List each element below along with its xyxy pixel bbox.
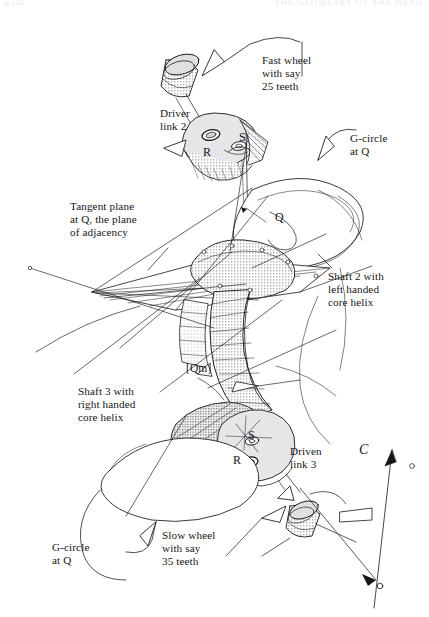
node-circle-icon <box>410 464 415 469</box>
node-circle-icon <box>377 583 383 589</box>
slow-wheel-cylinder <box>286 497 321 537</box>
annotation-driver-link: Driver link 2 <box>160 107 190 133</box>
point-label-q: Q <box>275 210 284 224</box>
point-label-c: C <box>359 442 368 459</box>
figure-page: g.122 THE GEOMETRY OF THE MESH <box>0 0 429 617</box>
annotation-tangent-plane: Tangent plane at Q, the plane of adjacen… <box>70 200 137 240</box>
annotation-driven-link: Driven link 3 <box>290 445 322 471</box>
point-label-r-upper: R <box>203 145 211 159</box>
annotation-shaft-3: Shaft 3 with right handed core helix <box>78 385 135 425</box>
point-label-r-lower: R <box>233 453 241 467</box>
annotation-slow-wheel: Slow wheel with say 35 teeth <box>162 529 216 569</box>
point-label-qm: [Qm] <box>186 362 211 376</box>
g-circle-lower <box>101 438 259 521</box>
annotation-fast-wheel: Fast wheel with say 25 teeth <box>262 54 311 94</box>
annotation-shaft-2: Shaft 2 with left handed core helix <box>328 270 384 310</box>
annotation-g-circle-bottom: G-circle at Q <box>52 541 89 567</box>
annotation-g-circle-top: G-circle at Q <box>350 132 387 158</box>
secondary-helix-ribbon <box>179 300 208 368</box>
point-label-s-upper: S <box>239 130 246 144</box>
point-label-s-lower: S <box>248 428 255 442</box>
fast-wheel-cylinder <box>161 50 202 97</box>
core-helix-ribbon <box>210 290 272 420</box>
driver-link-body <box>182 113 268 181</box>
